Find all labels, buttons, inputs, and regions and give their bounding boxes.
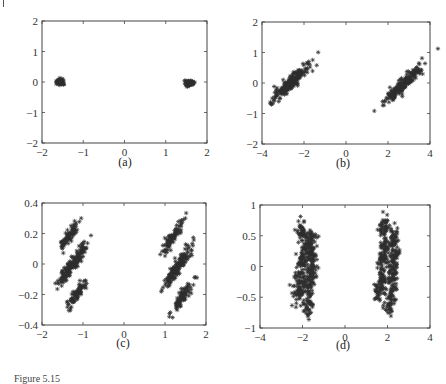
x-tick-label: 4 [427, 331, 433, 343]
x-tick-label: 2 [385, 331, 391, 343]
data-points [288, 210, 402, 322]
x-tick-label: −2 [297, 331, 309, 343]
plot-frame [260, 205, 430, 328]
y-tick-label: −1 [244, 322, 256, 334]
y-tick-label: 0.5 [242, 230, 256, 242]
y-tick-label: −0.5 [236, 291, 256, 303]
y-tick-label: 1 [251, 199, 257, 211]
y-tick-label: 0 [251, 261, 257, 273]
panel-d-label: (d) [323, 338, 363, 353]
figure-caption: Figure 5.15 [14, 373, 60, 384]
